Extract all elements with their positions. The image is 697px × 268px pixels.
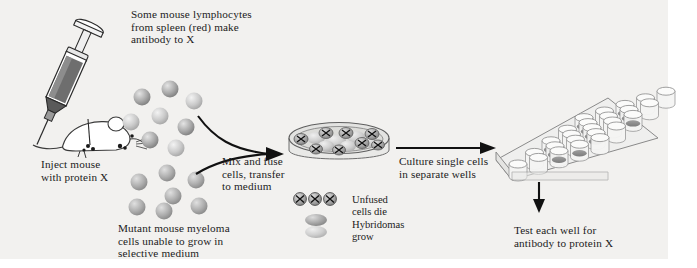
- caption-myeloma: Mutant mouse myeloma cells unable to gro…: [118, 222, 230, 260]
- figure-root: (function(){ var g=document.getElementBy…: [0, 0, 697, 268]
- legend-icons: [292, 192, 348, 238]
- well-plate-icon: [490, 92, 670, 192]
- arrow-down-icon: [530, 182, 548, 214]
- caption-mix-fuse: Mix and fuse cells, transfer to medium: [222, 155, 285, 193]
- arrow-right-icon-2: [396, 140, 500, 156]
- legend-label-unfused: Unfused cells die: [352, 194, 388, 218]
- caption-inject-mouse: Inject mouse with protein X: [41, 158, 108, 183]
- petri-dish-icon: [286, 112, 394, 174]
- caption-culture: Culture single cells in separate wells: [399, 155, 488, 180]
- caption-test-wells: Test each well for antibody to protein X: [514, 224, 613, 249]
- caption-lymphocytes: Some mouse lymphocytes from spleen (red)…: [131, 8, 252, 46]
- legend-label-hybridomas: Hybridomas grow: [352, 219, 404, 243]
